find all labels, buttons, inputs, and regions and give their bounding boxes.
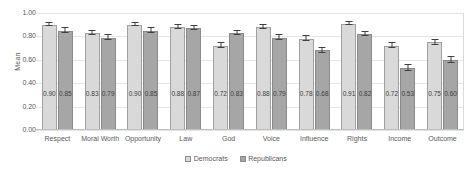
bar[interactable]: 0.87 [186, 28, 201, 130]
bar-value-label: 0.83 [230, 91, 243, 98]
error-bar-cap-top [217, 42, 224, 43]
bar-value-label: 0.82 [359, 91, 372, 98]
bar[interactable]: 0.90 [127, 25, 142, 130]
plot-right-border [463, 13, 464, 130]
bar-value-label: 0.90 [129, 91, 142, 98]
bar[interactable]: 0.88 [170, 27, 185, 130]
bar[interactable]: 0.60 [443, 60, 458, 130]
error-bar-cap-bottom [303, 40, 310, 41]
bar-column: 0.88 [170, 27, 185, 130]
bar[interactable]: 0.68 [315, 50, 330, 130]
bar-value-label: 0.75 [428, 91, 441, 98]
error-bar-cap-bottom [319, 52, 326, 53]
bar-value-label: 0.72 [214, 91, 227, 98]
bar-value-label: 0.91 [343, 91, 356, 98]
bar-column: 0.60 [443, 60, 458, 130]
error-bar-cap-top [89, 30, 96, 31]
error-bar-cap-top [303, 35, 310, 36]
bar[interactable]: 0.78 [299, 39, 314, 130]
bar-group: 0.880.79 [250, 13, 293, 130]
bar-column: 0.75 [427, 42, 442, 130]
error-bar-cap-bottom [131, 25, 138, 26]
gridline [36, 130, 464, 131]
bar-value-label: 0.90 [43, 91, 56, 98]
x-axis-label: Influence [293, 134, 336, 148]
bar-column: 0.85 [58, 31, 73, 130]
error-bar-cap-bottom [89, 34, 96, 35]
error-bar-cap-top [147, 27, 154, 28]
error-bar-cap-top [131, 22, 138, 23]
bar-value-label: 0.88 [171, 91, 184, 98]
bar-column: 0.79 [272, 38, 287, 130]
error-bar-cap-top [174, 24, 181, 25]
bar[interactable]: 0.88 [256, 27, 271, 130]
legend-item[interactable]: Democrats [185, 155, 227, 162]
bar-groups: 0.900.850.830.790.900.850.880.870.720.83… [36, 13, 464, 130]
bar-value-label: 0.87 [187, 91, 200, 98]
bar[interactable]: 0.75 [427, 42, 442, 130]
bar-chart: Mean 1.000.800.600.400.200.00 0.900.850.… [0, 0, 472, 176]
x-axis-label: Outcome [421, 134, 464, 148]
error-bar-cap-bottom [388, 47, 395, 48]
chart-legend: DemocratsRepublicans [0, 155, 472, 162]
error-bar-cap-top [105, 34, 112, 35]
bar-column: 0.87 [186, 28, 201, 130]
bar[interactable]: 0.85 [58, 31, 73, 130]
error-bar-cap-top [190, 25, 197, 26]
bar[interactable]: 0.91 [341, 24, 356, 130]
bar-column: 0.88 [256, 27, 271, 130]
bar[interactable]: 0.79 [272, 38, 287, 130]
bar-group: 0.900.85 [122, 13, 165, 130]
bar[interactable]: 0.53 [400, 68, 415, 130]
y-axis: Mean 1.000.800.600.400.200.00 [0, 0, 36, 176]
x-axis-label: God [207, 134, 250, 148]
x-axis-label: Income [378, 134, 421, 148]
error-bar-cap-top [319, 47, 326, 48]
bar-column: 0.72 [384, 46, 399, 130]
bar[interactable]: 0.72 [384, 46, 399, 130]
plot-area: 0.900.850.830.790.900.850.880.870.720.83… [36, 13, 464, 130]
error-bar-cap-bottom [62, 32, 69, 33]
bar[interactable]: 0.90 [42, 25, 57, 130]
bar-group: 0.750.60 [421, 13, 464, 130]
bar[interactable]: 0.72 [213, 46, 228, 130]
legend-swatch-icon [185, 156, 191, 162]
bar[interactable]: 0.85 [143, 31, 158, 130]
bar-group: 0.780.68 [293, 13, 336, 130]
error-bar-cap-top [447, 56, 454, 57]
error-bar-cap-top [233, 30, 240, 31]
bar[interactable]: 0.83 [85, 33, 100, 130]
bar-column: 0.85 [143, 31, 158, 130]
bar-value-label: 0.68 [316, 91, 329, 98]
x-axis-category-labels: RespectMoral WorthOpportunityLawGodVoice… [36, 134, 464, 148]
bar[interactable]: 0.79 [101, 38, 116, 130]
x-axis-label: Law [164, 134, 207, 148]
bar-group: 0.900.85 [36, 13, 79, 130]
legend-label: Republicans [248, 155, 287, 162]
legend-label: Democrats [194, 155, 228, 162]
bar-value-label: 0.53 [401, 91, 414, 98]
legend-item[interactable]: Republicans [240, 155, 287, 162]
error-bar-cap-bottom [190, 29, 197, 30]
bar-group: 0.910.82 [336, 13, 379, 130]
bar[interactable]: 0.82 [357, 34, 372, 130]
bar-column: 0.90 [42, 25, 57, 130]
bar-value-label: 0.79 [102, 91, 115, 98]
error-bar-cap-bottom [174, 28, 181, 29]
error-bar-cap-bottom [260, 28, 267, 29]
error-bar-cap-bottom [447, 62, 454, 63]
bar-value-label: 0.83 [86, 91, 99, 98]
error-bar-cap-bottom [217, 47, 224, 48]
error-bar-cap-top [46, 22, 53, 23]
error-bar-cap-bottom [46, 25, 53, 26]
error-bar-cap-top [361, 31, 368, 32]
error-bar-cap-top [388, 42, 395, 43]
error-bar-cap-bottom [431, 44, 438, 45]
x-axis-label: Voice [250, 134, 293, 148]
x-axis-label: Opportunity [122, 134, 165, 148]
bar[interactable]: 0.83 [229, 33, 244, 130]
bar-column: 0.72 [213, 46, 228, 130]
bar-column: 0.91 [341, 24, 356, 130]
bar-group: 0.720.53 [378, 13, 421, 130]
legend-swatch-icon [240, 156, 246, 162]
